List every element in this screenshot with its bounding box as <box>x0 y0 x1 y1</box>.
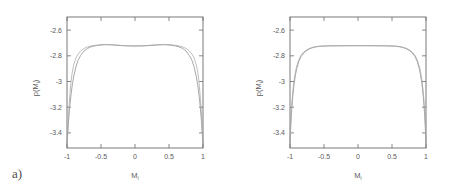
x-axis-title-sub: i <box>138 175 139 181</box>
plot-svg-b: -2.6 -2.8 -3 -3.2 -3.4 -1 -0.5 0 0.5 1 p… <box>225 0 450 192</box>
x-tick-label: 0.5 <box>164 153 174 160</box>
data-curve-1 <box>290 46 426 146</box>
svg-text:p(Mi): p(Mi) <box>254 79 264 96</box>
x-axis-ticks-b <box>290 17 426 148</box>
y-tick-labels-b: -2.6 -2.8 -3 -3.2 -3.4 <box>273 27 285 137</box>
x-tick-label: -1 <box>287 153 293 160</box>
y-tick-label: -3 <box>56 78 62 85</box>
y-tick-label: -2.6 <box>50 27 62 34</box>
x-axis-title-a: Mi <box>131 171 138 181</box>
plot-panel-a: -2.6 -2.8 -3 -3.2 -3.4 -1 -0.5 0 0.5 1 p… <box>0 0 225 192</box>
y-tick-labels-a: -2.6 -2.8 -3 -3.2 -3.4 <box>50 27 62 137</box>
curves-a <box>67 44 203 145</box>
data-curve-2 <box>67 44 203 145</box>
x-tick-label: -0.5 <box>318 153 330 160</box>
y-axis-title-close: ) <box>254 79 263 82</box>
y-axis-title-a: p(Mi) <box>31 79 41 96</box>
plot-panel-b: -2.6 -2.8 -3 -3.2 -3.4 -1 -0.5 0 0.5 1 p… <box>225 0 450 192</box>
x-tick-labels-a: -1 -0.5 0 0.5 1 <box>64 153 205 160</box>
svg-text:Mi: Mi <box>131 171 138 181</box>
y-tick-label: -3 <box>279 78 285 85</box>
panel-label-a: a) <box>12 166 22 182</box>
y-axis-title-b: p(Mi) <box>254 79 264 96</box>
y-tick-label: -3.4 <box>50 129 62 136</box>
x-tick-label: 0.5 <box>387 153 397 160</box>
y-tick-label: -2.8 <box>50 52 62 59</box>
plot-frame-b <box>290 17 426 148</box>
x-axis-title-sub: i <box>361 175 362 181</box>
plot-frame-a <box>67 17 203 148</box>
x-tick-label: 1 <box>201 153 205 160</box>
y-tick-label: -3.4 <box>273 129 285 136</box>
plot-svg-a: -2.6 -2.8 -3 -3.2 -3.4 -1 -0.5 0 0.5 1 p… <box>0 0 225 192</box>
y-tick-label: -2.8 <box>273 52 285 59</box>
svg-text:Mi: Mi <box>354 171 361 181</box>
x-axis-ticks-a <box>67 17 203 148</box>
svg-text:p(Mi): p(Mi) <box>31 79 41 96</box>
y-axis-title-close: ) <box>31 79 40 82</box>
y-tick-label: -3.2 <box>273 104 285 111</box>
x-tick-label: 0 <box>133 153 137 160</box>
y-axis-ticks-a <box>67 30 203 133</box>
x-tick-label: 1 <box>424 153 428 160</box>
y-tick-label: -2.6 <box>273 27 285 34</box>
y-axis-title-text: p(M <box>31 83 40 96</box>
x-tick-labels-b: -1 -0.5 0 0.5 1 <box>287 153 428 160</box>
y-axis-title-text: p(M <box>254 83 263 96</box>
data-curve-2 <box>290 46 426 146</box>
x-tick-label: -0.5 <box>95 153 107 160</box>
data-curve-1 <box>67 45 203 146</box>
curves-b <box>290 46 426 146</box>
x-tick-label: -1 <box>64 153 70 160</box>
x-axis-title-b: Mi <box>354 171 361 181</box>
x-tick-label: 0 <box>356 153 360 160</box>
y-tick-label: -3.2 <box>50 104 62 111</box>
